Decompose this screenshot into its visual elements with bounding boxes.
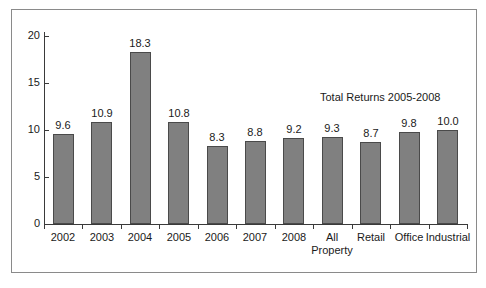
bar	[130, 52, 151, 224]
x-axis-tick	[121, 224, 122, 229]
x-axis-tick	[275, 224, 276, 229]
x-axis-category-label-line: Property	[300, 244, 364, 257]
y-axis-tick-label: 20	[10, 30, 40, 41]
annotation-total-returns: Total Returns 2005-2008	[320, 91, 440, 103]
x-axis-tick	[198, 224, 199, 229]
bar-value-label: 9.8	[389, 117, 429, 129]
bar	[360, 142, 381, 224]
bar-value-label: 8.3	[197, 131, 237, 143]
x-axis-tick	[44, 224, 45, 229]
y-axis-tick	[44, 36, 49, 37]
x-axis-tick	[390, 224, 391, 229]
bar	[322, 137, 343, 224]
bar-value-label: 10.0	[428, 115, 468, 127]
x-axis-line	[44, 224, 467, 225]
bar-value-label: 9.3	[312, 122, 352, 134]
x-axis-tick	[429, 224, 430, 229]
y-axis-tick-label: 0	[10, 218, 40, 229]
y-axis-tick-label-text: 20	[12, 30, 40, 41]
bar	[399, 132, 420, 224]
y-axis-tick-label-text: 0	[12, 218, 40, 229]
y-axis-tick-label: 5	[10, 171, 40, 182]
y-axis-tick-label-text: 10	[12, 124, 40, 135]
bar	[437, 130, 458, 224]
x-axis-tick	[467, 224, 468, 229]
x-axis-tick	[82, 224, 83, 229]
bar	[168, 122, 189, 224]
x-axis-tick	[159, 224, 160, 229]
y-axis-tick-label: 10	[10, 124, 40, 135]
x-axis-tick	[352, 224, 353, 229]
y-axis-tick-label-text: 5	[12, 171, 40, 182]
y-axis-tick	[44, 83, 49, 84]
y-axis-tick-label-text: 15	[12, 77, 40, 88]
y-axis-tick-label: 15	[10, 77, 40, 88]
bar	[245, 141, 266, 224]
bar-value-label: 8.8	[235, 126, 275, 138]
bar-value-label: 9.6	[43, 119, 83, 131]
bar	[91, 122, 112, 224]
chart-root: 05101520 9.610.918.310.88.38.89.29.38.79…	[0, 0, 486, 288]
x-axis-category-label-line: All	[326, 231, 338, 243]
bar	[283, 138, 304, 224]
x-axis-category-label: Industrial	[416, 231, 480, 244]
bar-value-label: 10.9	[82, 107, 122, 119]
x-axis-tick	[236, 224, 237, 229]
bar	[53, 134, 74, 224]
y-axis-tick	[44, 177, 49, 178]
bar-value-label: 8.7	[351, 127, 391, 139]
bar-value-label: 18.3	[120, 37, 160, 49]
bar-value-label: 9.2	[274, 123, 314, 135]
x-axis-tick	[313, 224, 314, 229]
bar-value-label: 10.8	[159, 107, 199, 119]
x-axis-category-label-line: Industrial	[426, 231, 471, 243]
bar	[207, 146, 228, 224]
